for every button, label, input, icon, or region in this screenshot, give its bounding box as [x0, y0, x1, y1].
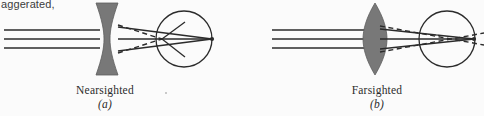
- incoming-parallel-rays-b: [272, 30, 372, 48]
- caption-farsighted: Farsighted: [330, 84, 424, 96]
- corrected-rays-solid-b: [380, 29, 476, 49]
- optics-figure: repeat and aggerated,: [0, 0, 484, 116]
- corrected-rays-solid-a: [118, 27, 214, 51]
- focal-point-solid: [472, 37, 476, 41]
- caption-nearsighted: Nearsighted: [58, 84, 152, 96]
- diverging-ray-after-focus: [162, 39, 185, 57]
- diverging-ray-after-focus: [162, 22, 185, 39]
- focal-point-solid: [210, 37, 214, 41]
- page-speck: [165, 92, 167, 94]
- caption-letter-a: (a): [58, 98, 152, 110]
- panel-nearsighted: [4, 3, 214, 75]
- caption-letter-b: (b): [330, 98, 424, 110]
- panel-farsighted: [272, 3, 484, 75]
- incoming-parallel-rays-a: [4, 30, 100, 48]
- page-speck: [436, 34, 438, 36]
